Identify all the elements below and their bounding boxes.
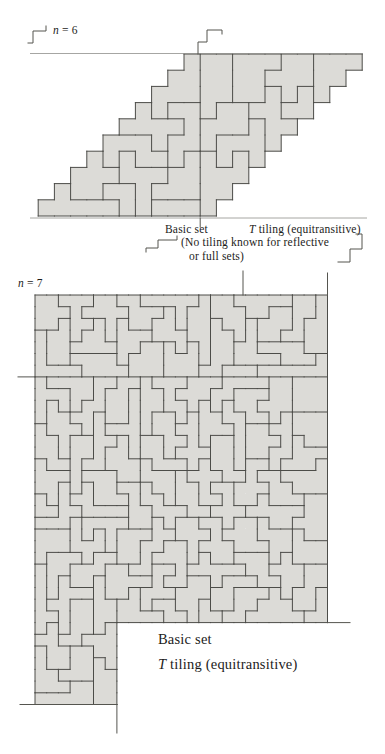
n6-caption-basic-set: Basic set	[165, 223, 208, 236]
n6-boundary-mark-2	[146, 236, 177, 252]
n6-caption-t-rest: tiling (equitransitive)	[256, 223, 361, 235]
n6-note-line1: (No tiling known for reflective	[181, 236, 329, 249]
n6-heading: n = 6	[53, 24, 78, 37]
n6-boundary-mark-1	[198, 30, 222, 54]
n6-boundary-mark-3	[338, 234, 362, 262]
n7-heading: n = 7	[18, 277, 43, 290]
n6-caption-t-tiling: T tiling (equitransitive)	[249, 223, 361, 236]
n7-caption-t-rest: tiling (equitransitive)	[166, 656, 297, 672]
n6-caption-t-symbol: T	[249, 223, 256, 235]
n6-note-line2: or full sets)	[189, 250, 244, 263]
n6-boundary-mark-0	[28, 26, 46, 43]
n7-heading-value: = 7	[24, 277, 43, 289]
n7-caption-t-tiling: T tiling (equitransitive)	[158, 656, 298, 673]
n6-heading-value: = 6	[59, 24, 78, 36]
n7-caption-basic-set: Basic set	[158, 631, 212, 648]
book-figure-page: n = 6 Basic set T tiling (equitransitive…	[0, 0, 385, 754]
